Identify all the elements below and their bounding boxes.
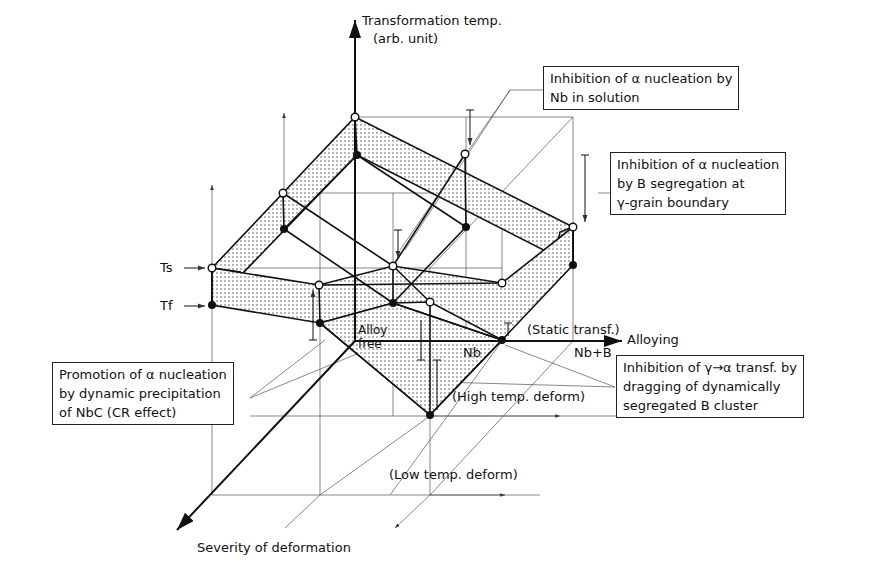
alloying-axis-label: Alloying	[627, 332, 679, 348]
alloy-free-label: Alloy free	[358, 323, 387, 351]
nb-b-label: Nb+B	[574, 345, 612, 361]
low-temp-deform-label: (Low temp. deform)	[389, 467, 518, 483]
annotation-nb-solution: Inhibition of α nucleation by Nb in solu…	[543, 66, 739, 110]
high-temp-deform-label: (High temp. deform)	[452, 389, 585, 405]
deformation-axis-label: Severity of deformation	[197, 540, 351, 556]
annotation-nbc-precipitation: Promotion of α nucleation by dynamic pre…	[52, 362, 234, 425]
temperature-axis-label-line1: Transformation temp.	[362, 13, 502, 28]
annotation-b-segregation: Inhibition of α nucleation by B segregat…	[610, 152, 786, 215]
static-transf-label: (Static transf.)	[527, 322, 620, 338]
temperature-axis-label: Transformation temp.	[362, 13, 502, 29]
ts-label: Ts	[160, 260, 173, 276]
temperature-axis-unit: (arb. unit)	[373, 31, 438, 47]
annotation-b-cluster: Inhibition of γ→α transf. by dragging of…	[616, 355, 804, 418]
tf-label: Tf	[160, 298, 173, 314]
nb-label: Nb	[463, 345, 481, 361]
diagram-canvas	[0, 0, 889, 583]
